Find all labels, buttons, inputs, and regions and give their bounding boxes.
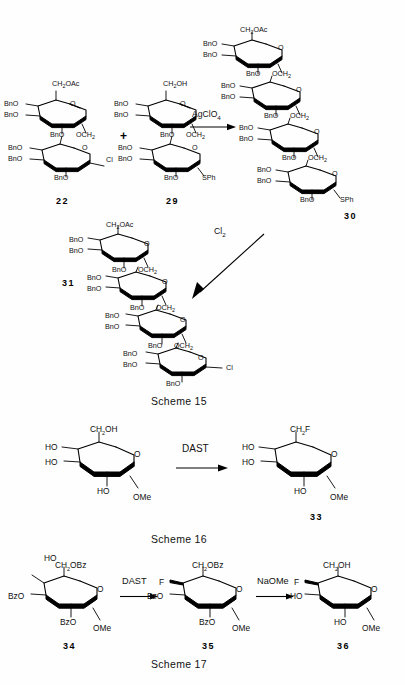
pyranose-ring-1 xyxy=(88,226,148,268)
label-ch2oh-36: CH2OH xyxy=(323,561,351,572)
compound-number-33: 33 xyxy=(310,512,323,522)
label-ring-o-30b: O xyxy=(296,86,302,93)
label-bno-31h: BnO xyxy=(105,323,119,330)
label-bno-30c: BnO xyxy=(246,70,260,77)
compound-32-structure xyxy=(58,430,168,510)
label-cl-31: Cl xyxy=(226,364,233,371)
label-bno-30i: BnO xyxy=(282,154,296,161)
label-bno-31g: BnO xyxy=(105,312,119,319)
arrow-dast-16 xyxy=(176,463,228,473)
label-bno-29e: BnO xyxy=(118,155,132,162)
label-och2-31a: OCH2 xyxy=(138,266,157,276)
label-ring-o-32: O xyxy=(134,450,141,458)
reagent-dast-17: DAST xyxy=(122,576,147,586)
label-ring-o-31a: O xyxy=(144,240,150,247)
compound-33-structure xyxy=(255,430,365,510)
label-ome-36: OMe xyxy=(362,624,380,632)
compound-35-svg xyxy=(165,565,270,640)
label-bno-30b: BnO xyxy=(203,51,217,58)
pyranose-ring-upper xyxy=(136,91,196,134)
pyranose-ring xyxy=(305,567,374,620)
reagent-naome: NaOMe xyxy=(257,576,289,586)
compound-number-34: 34 xyxy=(63,641,76,651)
compound-number-35: 35 xyxy=(202,641,215,651)
label-ome-35: OMe xyxy=(232,624,250,632)
pyranose-ring-3 xyxy=(258,118,318,158)
label-ho-33a: HO xyxy=(242,443,255,451)
label-ch2oac-31: CH2OAc xyxy=(106,221,133,231)
label-ho-32a: HO xyxy=(45,443,58,451)
plus-sign: + xyxy=(120,129,127,143)
label-bno-29a: BnO xyxy=(114,100,128,107)
label-ring-o-29a: O xyxy=(180,100,186,107)
scheme-15-caption: Scheme 15 xyxy=(151,395,207,407)
label-bno-22c: BnO xyxy=(50,131,64,138)
label-bno-29d: BnO xyxy=(118,144,132,151)
label-bno-31f: BnO xyxy=(130,304,144,311)
label-bno-30g: BnO xyxy=(239,124,253,131)
label-bno-31l: BnO xyxy=(166,380,180,387)
label-ho-36a: HO xyxy=(290,592,303,600)
label-bno-22b: BnO xyxy=(4,111,18,118)
label-bno-31k: BnO xyxy=(123,361,137,368)
label-bno-30e: BnO xyxy=(221,93,235,100)
pyranose-ring-lower xyxy=(30,136,104,177)
compound-36-structure xyxy=(300,565,405,640)
label-ring-o-33: O xyxy=(331,450,338,458)
label-bno-30j: BnO xyxy=(257,166,271,173)
label-bno-31b: BnO xyxy=(69,247,83,254)
label-bno-31i: BnO xyxy=(148,342,162,349)
label-ch2obz-35: CH2OBz xyxy=(192,561,223,572)
label-bno-31c: BnO xyxy=(112,266,126,273)
label-och2-22: OCH2 xyxy=(76,131,95,141)
label-ch2oh-29: CH2OH xyxy=(163,80,187,90)
label-ome-32: OMe xyxy=(133,493,151,501)
compound-number-31: 31 xyxy=(62,278,75,288)
label-bzo-34a: BzO xyxy=(8,592,24,600)
label-ome-34: OMe xyxy=(93,624,111,632)
compound-number-30: 30 xyxy=(344,211,357,221)
reagent-dast-16: DAST xyxy=(182,443,209,454)
label-och2-30c: OCH2 xyxy=(308,154,327,164)
label-och2-30b: OCH2 xyxy=(290,112,309,122)
compound-34-svg xyxy=(26,565,131,640)
compound-35-structure xyxy=(165,565,270,640)
pyranose-ring xyxy=(259,432,335,488)
label-ho-33b: HO xyxy=(242,458,255,466)
pyranose-ring xyxy=(170,567,239,620)
label-ring-o-31c: O xyxy=(180,316,186,323)
label-f-35: F xyxy=(159,578,164,586)
label-ring-o-35: O xyxy=(236,585,243,593)
label-ho-36b: HO xyxy=(334,618,347,626)
reagent-agclo4: AgClO4 xyxy=(192,109,221,121)
compound-32-svg xyxy=(58,430,168,510)
compound-number-29: 29 xyxy=(166,196,179,206)
label-ring-o-34: O xyxy=(97,585,104,593)
label-ring-o-22b: O xyxy=(82,144,88,151)
label-ch2oac-30: CH2OAc xyxy=(240,26,267,36)
pyranose-ring-upper xyxy=(26,91,86,134)
label-bno-22d: BnO xyxy=(8,144,22,151)
label-bno-22f: BnO xyxy=(54,174,68,181)
label-bno-30l: BnO xyxy=(300,196,314,203)
pyranose-ring-4 xyxy=(276,160,340,200)
scheme-16-caption: Scheme 16 xyxy=(151,533,207,545)
label-och2-29: OCH2 xyxy=(186,131,205,141)
label-bno-30f: BnO xyxy=(264,112,278,119)
label-ring-o-30d: O xyxy=(332,170,338,177)
label-ring-o-29b: O xyxy=(192,144,198,151)
compound-number-36: 36 xyxy=(337,641,350,651)
label-ring-o-36: O xyxy=(371,585,378,593)
label-bno-31d: BnO xyxy=(87,274,101,281)
label-bno-31a: BnO xyxy=(69,236,83,243)
pyranose-ring-2 xyxy=(240,76,300,116)
label-bzo-35b: BzO xyxy=(199,618,215,626)
label-bno-30h: BnO xyxy=(239,135,253,142)
pyranose-ring xyxy=(31,567,100,620)
label-ring-o-31b: O xyxy=(162,278,168,285)
compound-number-22: 22 xyxy=(56,196,69,206)
label-bno-30a: BnO xyxy=(203,40,217,47)
label-bno-29b: BnO xyxy=(114,111,128,118)
compound-33-svg xyxy=(255,430,365,510)
label-ring-o-31d: O xyxy=(198,354,204,361)
